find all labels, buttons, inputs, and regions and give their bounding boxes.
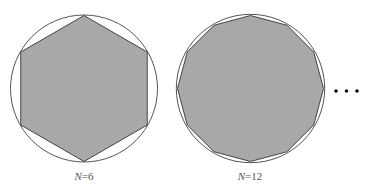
- label-n6: N=6: [74, 170, 93, 182]
- label-n12: N=12: [238, 170, 263, 182]
- inscribed-dodecagon: [178, 16, 324, 162]
- dodecagon-panel: [176, 14, 324, 162]
- inscribed-hexagon: [21, 16, 147, 162]
- polygon-approximation-diagram: [0, 0, 367, 194]
- ellipsis-dots: [334, 89, 359, 93]
- hexagon-panel: [11, 15, 158, 162]
